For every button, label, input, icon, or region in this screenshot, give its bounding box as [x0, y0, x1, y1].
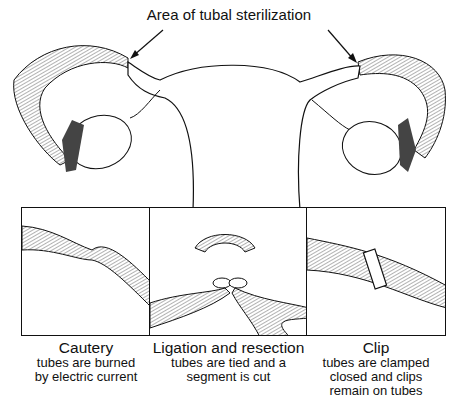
ligation-tube-illustration [150, 208, 308, 336]
caption-line: tubes are clamped [306, 356, 446, 370]
caption-heading: Cautery [21, 339, 151, 356]
cautery-tube-illustration [22, 208, 151, 336]
caption-line: closed and clips [306, 370, 446, 384]
caption-line: tubes are burned [21, 356, 151, 370]
caption-heading: Ligation and resection [146, 339, 311, 356]
caption-line: by electric current [21, 370, 151, 384]
caption-heading: Clip [306, 339, 446, 356]
caption-ligation: Ligation and resection tubes are tied an… [146, 339, 311, 384]
caption-line: remain on tubes [306, 384, 446, 398]
uterus-illustration [0, 0, 458, 210]
arrow-left-icon [130, 30, 163, 59]
arrow-right-icon [328, 30, 357, 63]
panel-ligation [149, 207, 308, 336]
caption-cautery: Cautery tubes are burned by electric cur… [21, 339, 151, 384]
caption-line: tubes are tied and a [146, 356, 311, 370]
clip-tube-illustration [307, 208, 446, 336]
caption-line: segment is cut [146, 370, 311, 384]
panel-clip [306, 207, 446, 336]
caption-clip: Clip tubes are clamped closed and clips … [306, 339, 446, 398]
panel-cautery [21, 207, 151, 336]
